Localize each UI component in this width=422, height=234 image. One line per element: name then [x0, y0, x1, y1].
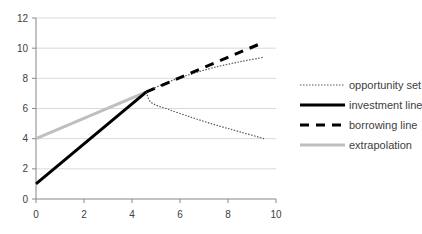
legend-item-extrapolation: extrapolation: [300, 135, 422, 155]
legend-item-investment-line: investment line: [300, 95, 422, 115]
y-tick-label: 2: [22, 163, 28, 174]
x-tick-label: 10: [270, 209, 282, 220]
legend-label: opportunity set: [349, 79, 421, 91]
x-tick-label: 0: [33, 209, 39, 220]
series-opportunity-set-lower: [146, 92, 264, 139]
series-borrowing-line: [146, 42, 264, 92]
y-tick-label: 12: [17, 13, 29, 24]
series-extrapolation: [36, 92, 146, 139]
x-tick-label: 4: [129, 209, 135, 220]
legend-label: extrapolation: [349, 139, 412, 151]
y-tick-label: 10: [17, 43, 29, 54]
y-tick-label: 0: [22, 194, 28, 205]
dashed-line-icon: [300, 120, 345, 130]
tick-labels: 0246810120246810: [17, 13, 282, 221]
x-tick-label: 2: [81, 209, 87, 220]
series-investment-line: [36, 92, 146, 184]
y-tick-label: 6: [22, 103, 28, 114]
gridlines: [36, 18, 276, 169]
legend: opportunity set investment line borrowin…: [300, 75, 422, 155]
solid-line-icon: [300, 100, 345, 110]
y-tick-label: 4: [22, 133, 28, 144]
dotted-line-icon: [300, 80, 345, 90]
x-tick-label: 8: [225, 209, 231, 220]
axes: [32, 18, 276, 203]
legend-label: investment line: [349, 99, 422, 111]
gray-line-icon: [300, 140, 345, 150]
legend-label: borrowing line: [349, 119, 417, 131]
y-tick-label: 8: [22, 73, 28, 84]
legend-item-borrowing-line: borrowing line: [300, 115, 422, 135]
series-opportunity-set: [146, 57, 264, 92]
series-layer: [36, 42, 264, 184]
legend-item-opportunity-set: opportunity set: [300, 75, 422, 95]
x-tick-label: 6: [177, 209, 183, 220]
